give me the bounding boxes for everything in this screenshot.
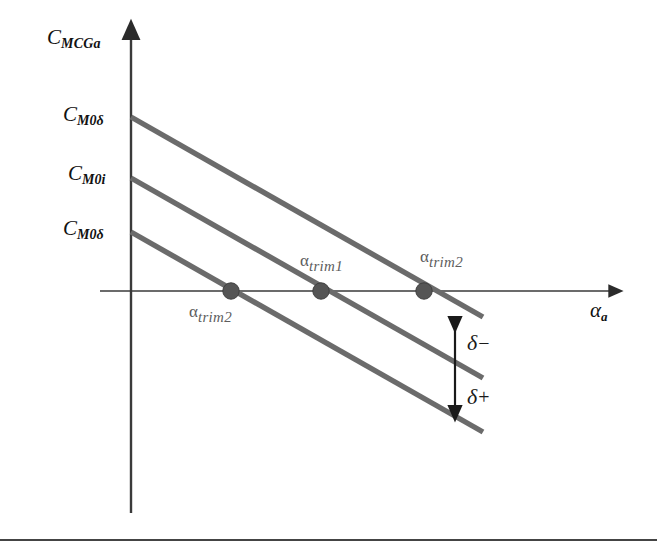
delta-minus-sign: − bbox=[477, 332, 489, 354]
x-axis-title-sub: a bbox=[601, 309, 608, 324]
delta-minus-symbol: δ bbox=[467, 330, 477, 355]
trim-marker-middle bbox=[313, 283, 329, 299]
y-axis-title: CMCGa bbox=[47, 27, 101, 51]
intercept-label-upper: CM0δ bbox=[63, 104, 104, 128]
intercept-upper-base: C bbox=[63, 102, 77, 126]
trim-marker-upper bbox=[416, 283, 432, 299]
trim-upper-base: α bbox=[420, 247, 429, 266]
trim-upper-sub: trim2 bbox=[429, 254, 463, 270]
intercept-label-middle: CM0i bbox=[68, 163, 105, 187]
y-axis-title-sub: MCGa bbox=[61, 36, 101, 51]
x-axis-title: αa bbox=[590, 300, 608, 323]
x-axis-title-base: α bbox=[590, 298, 601, 322]
delta-plus-sign: + bbox=[477, 386, 489, 408]
intercept-middle-sub: M0i bbox=[82, 172, 105, 187]
intercept-lower-sub: M0δ bbox=[77, 227, 104, 242]
intercept-lower-base: C bbox=[63, 216, 77, 240]
trim-lower-sub: trim2 bbox=[198, 309, 232, 325]
figure-canvas: CMCGa αa CM0δ CM0i CM0δ αtrim2 αtrim1 αt… bbox=[0, 0, 657, 557]
intercept-label-lower: CM0δ bbox=[63, 218, 104, 242]
y-axis-title-base: C bbox=[47, 25, 61, 49]
trim-lower-base: α bbox=[189, 302, 198, 321]
diagram-svg bbox=[0, 0, 657, 557]
trim-label-lower: αtrim2 bbox=[189, 303, 232, 325]
data-line-middle bbox=[131, 178, 483, 378]
intercept-middle-base: C bbox=[68, 161, 82, 185]
trim-label-middle: αtrim1 bbox=[300, 252, 343, 274]
delta-plus-symbol: δ bbox=[467, 384, 477, 409]
trim-label-upper: αtrim2 bbox=[420, 248, 463, 270]
trim-middle-base: α bbox=[300, 251, 309, 270]
delta-minus-label: δ− bbox=[467, 332, 490, 354]
intercept-upper-sub: M0δ bbox=[77, 113, 104, 128]
delta-plus-label: δ+ bbox=[467, 386, 490, 408]
trim-middle-sub: trim1 bbox=[309, 258, 343, 274]
trim-marker-lower bbox=[223, 283, 239, 299]
